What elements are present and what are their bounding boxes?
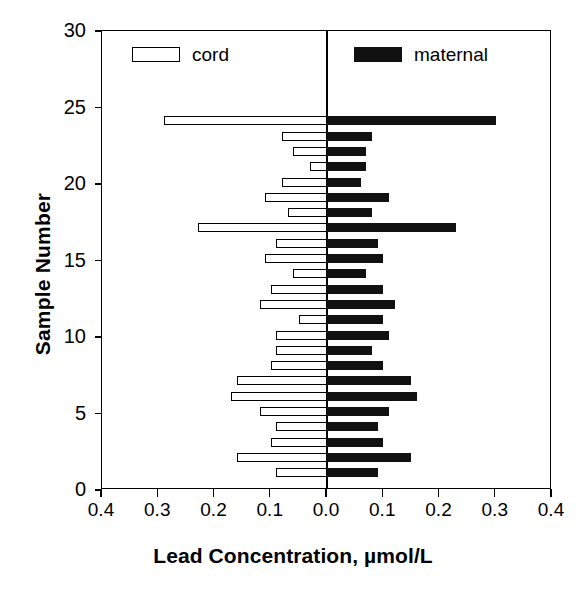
y-tick-mark	[95, 260, 102, 261]
x-tick-mark	[325, 489, 326, 497]
bar-cord	[260, 300, 328, 309]
bar-maternal	[327, 116, 496, 125]
bar-maternal	[327, 407, 389, 416]
bar-row	[102, 132, 550, 141]
x-tick-mark	[382, 489, 383, 497]
bar-cord	[293, 269, 327, 278]
bar-maternal	[327, 132, 372, 141]
x-tick-label: 0.4	[521, 500, 581, 519]
bar-row	[102, 254, 550, 263]
bar-cord	[231, 392, 327, 401]
bar-row	[102, 208, 550, 217]
bar-cord	[271, 361, 327, 370]
legend-swatch-cord-icon	[132, 47, 180, 62]
legend-label-maternal: maternal	[414, 45, 488, 64]
y-tick-mark	[95, 107, 102, 108]
bar-maternal	[327, 331, 389, 340]
bar-maternal	[327, 315, 383, 324]
bar-cord	[237, 376, 327, 385]
bar-maternal	[327, 223, 456, 232]
bar-row	[102, 361, 550, 370]
bar-maternal	[327, 346, 372, 355]
y-tick-label: 10	[46, 326, 86, 346]
bar-cord	[288, 208, 327, 217]
bar-cord	[164, 116, 327, 125]
x-tick-mark	[213, 489, 214, 497]
bar-row	[102, 331, 550, 340]
bar-row	[102, 162, 550, 171]
x-tick-mark-group	[101, 489, 551, 498]
bar-maternal	[327, 392, 417, 401]
bar-maternal	[327, 147, 366, 156]
bar-row	[102, 269, 550, 278]
x-tick-label: 0.0	[296, 500, 356, 519]
bar-row	[102, 407, 550, 416]
bar-maternal	[327, 193, 389, 202]
y-tick-label: 30	[46, 20, 86, 40]
bar-cord	[282, 178, 327, 187]
bar-maternal	[327, 453, 411, 462]
plot-area: cord maternal	[101, 30, 551, 489]
legend-swatch-maternal-icon	[354, 47, 402, 62]
bar-row	[102, 315, 550, 324]
bar-row	[102, 223, 550, 232]
x-tick-mark	[494, 489, 495, 497]
y-tick-mark	[95, 183, 102, 184]
x-tick-mark	[157, 489, 158, 497]
x-tick-label: 0.2	[184, 500, 244, 519]
legend-entry-cord[interactable]: cord	[132, 45, 229, 64]
bar-maternal	[327, 285, 383, 294]
bar-cord	[299, 315, 327, 324]
x-tick-mark	[100, 489, 101, 497]
y-tick-mark	[95, 413, 102, 414]
bar-cord	[237, 453, 327, 462]
bar-row	[102, 376, 550, 385]
x-tick-mark	[438, 489, 439, 497]
bar-row	[102, 300, 550, 309]
bar-row	[102, 346, 550, 355]
bar-maternal	[327, 361, 383, 370]
x-tick-label: 0.1	[240, 500, 300, 519]
bar-maternal	[327, 208, 372, 217]
bar-row	[102, 453, 550, 462]
bar-row	[102, 178, 550, 187]
bar-row	[102, 285, 550, 294]
x-tick-mark	[550, 489, 551, 497]
x-axis-title: Lead Concentration, µmol/L	[0, 544, 586, 568]
bar-maternal	[327, 438, 383, 447]
bar-cord	[276, 346, 327, 355]
bar-row	[102, 239, 550, 248]
x-tick-label: 0.3	[127, 500, 187, 519]
bar-cord	[276, 468, 327, 477]
bar-maternal	[327, 178, 361, 187]
x-tick-label: 0.1	[352, 500, 412, 519]
x-tick-label: 0.3	[465, 500, 525, 519]
x-tick-label: 0.4	[71, 500, 131, 519]
bar-row	[102, 147, 550, 156]
bar-cord	[271, 285, 327, 294]
y-tick-label: 25	[46, 97, 86, 117]
bar-cord	[198, 223, 327, 232]
bar-row	[102, 422, 550, 431]
bar-row	[102, 116, 550, 125]
legend-label-cord: cord	[192, 45, 229, 64]
y-tick-label: 5	[46, 403, 86, 423]
bar-cord	[310, 162, 327, 171]
bar-maternal	[327, 162, 366, 171]
y-tick-mark	[95, 336, 102, 337]
y-tick-label: 0	[46, 479, 86, 499]
bar-maternal	[327, 254, 383, 263]
bar-row	[102, 438, 550, 447]
bar-cord	[271, 438, 327, 447]
legend-entry-maternal[interactable]: maternal	[354, 45, 488, 64]
bar-cord	[265, 254, 327, 263]
bar-maternal	[327, 376, 411, 385]
bar-cord	[282, 132, 327, 141]
lead-concentration-pyramid-chart: Sample Number 051015202530 cord maternal…	[0, 0, 586, 598]
bar-maternal	[327, 300, 395, 309]
bar-row	[102, 193, 550, 202]
y-tick-mark	[95, 30, 102, 31]
bar-cord	[260, 407, 328, 416]
bar-cord	[276, 239, 327, 248]
bar-cord	[276, 422, 327, 431]
